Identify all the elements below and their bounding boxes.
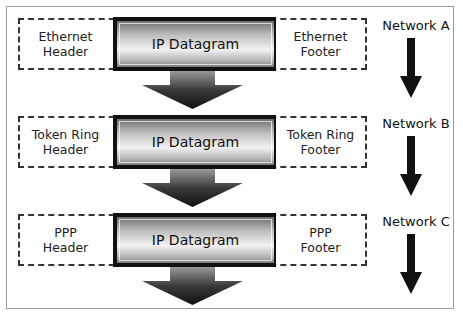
footer-line-1: Token Ring <box>287 127 355 142</box>
frame-header: Ethernet Header <box>18 18 113 70</box>
footer-line-1: PPP <box>301 225 341 240</box>
network-label: Network B <box>380 116 452 131</box>
header-line-1: Ethernet <box>39 29 93 44</box>
header-line-1: Token Ring <box>32 127 100 142</box>
header-line-2: Header <box>39 44 93 59</box>
ip-datagram-box: IP Datagram <box>113 213 276 267</box>
encapsulation-row-network-b: Token Ring Header IP Datagram Token Ring… <box>0 116 463 216</box>
frame-footer: Ethernet Footer <box>273 18 368 70</box>
down-arrow-icon <box>400 136 422 196</box>
down-arrow-icon <box>400 38 422 98</box>
footer-line-2: Footer <box>301 240 341 255</box>
ip-datagram-label: IP Datagram <box>152 232 239 248</box>
ip-datagram-label: IP Datagram <box>152 134 239 150</box>
encapsulation-row-network-c: PPP Header IP Datagram PPP Footer Networ… <box>0 214 463 314</box>
datagram-flow-arrow-icon <box>142 71 243 111</box>
down-arrow-icon <box>400 234 422 294</box>
network-label: Network C <box>380 214 452 229</box>
datagram-flow-arrow-icon <box>142 169 243 209</box>
frame-header: Token Ring Header <box>18 116 113 168</box>
network-label: Network A <box>380 18 452 33</box>
footer-line-1: Ethernet <box>294 29 348 44</box>
frame-footer: Token Ring Footer <box>273 116 368 168</box>
header-line-1: PPP <box>43 225 89 240</box>
footer-line-2: Footer <box>287 142 355 157</box>
ip-datagram-box: IP Datagram <box>113 115 276 169</box>
frame-footer: PPP Footer <box>273 214 368 266</box>
header-line-2: Header <box>43 240 89 255</box>
encapsulation-row-network-a: Ethernet Header IP Datagram Ethernet Foo… <box>0 18 463 118</box>
frame-header: PPP Header <box>18 214 113 266</box>
datagram-flow-arrow-icon <box>142 267 243 307</box>
header-line-2: Header <box>32 142 100 157</box>
footer-line-2: Footer <box>294 44 348 59</box>
ip-datagram-box: IP Datagram <box>113 17 276 71</box>
ip-datagram-label: IP Datagram <box>152 36 239 52</box>
